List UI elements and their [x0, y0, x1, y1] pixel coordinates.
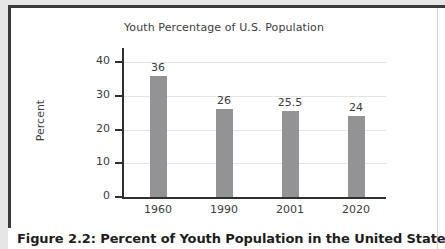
y-axis-line [122, 48, 124, 198]
x-tick-label: 1990 [199, 203, 249, 216]
x-axis-line [122, 197, 386, 199]
bar-value-label: 36 [138, 61, 178, 74]
y-tick-label: 40 [76, 54, 110, 67]
bar-value-label: 26 [204, 94, 244, 107]
y-tick-label: 0 [76, 189, 110, 202]
y-tick-mark [115, 95, 123, 97]
bar [150, 76, 167, 198]
y-tick-label: 20 [76, 122, 110, 135]
x-tick-label: 1960 [133, 203, 183, 216]
bar-value-label: 24 [336, 101, 376, 114]
y-axis-label: Percent [34, 76, 47, 166]
bar [348, 116, 365, 197]
x-tick-label: 2020 [331, 203, 381, 216]
bar-value-label: 25.5 [270, 96, 310, 109]
bar-chart: Youth Percentage of U.S. Population 0102… [11, 8, 437, 220]
y-tick-label: 10 [76, 155, 110, 168]
y-tick-mark [115, 129, 123, 131]
bar [282, 111, 299, 197]
figure-page: Youth Percentage of U.S. Population 0102… [0, 0, 445, 249]
y-tick-mark [115, 162, 123, 164]
bar [216, 109, 233, 197]
page-margin-left [0, 0, 8, 249]
y-tick-label: 30 [76, 88, 110, 101]
figure-border-right [437, 8, 438, 249]
y-tick-mark [115, 196, 123, 198]
y-tick-mark [115, 61, 123, 63]
plot-area: 010203040 Percent 362625.524 19601990200… [11, 8, 437, 220]
x-tick-label: 2001 [265, 203, 315, 216]
figure-caption: Figure 2.2: Percent of Youth Population … [17, 231, 437, 246]
